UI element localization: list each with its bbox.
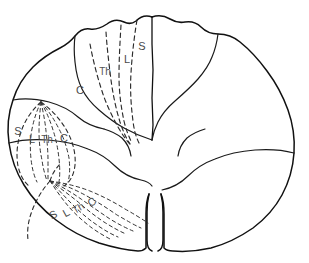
dorsal-funiculus-label-c: C <box>76 84 84 96</box>
segment-labels-group: CThLSSLThCSLThC <box>14 40 145 221</box>
gray-matter-left-border <box>9 140 152 186</box>
lateral-funiculus-label-s: S <box>14 125 21 137</box>
spinal-cord-diagram: CThLSSLThCSLThC <box>0 0 309 263</box>
ventral-funiculus-label-c: C <box>85 195 98 209</box>
dorsal-funiculus-label-th: Th <box>99 66 111 77</box>
inner-contour-right <box>178 129 205 156</box>
dorsal-lamina-line-2 <box>131 20 139 143</box>
lateral-funiculus-border <box>13 99 104 129</box>
dorsal-funiculus-label-l: L <box>124 53 130 65</box>
ventral-column-edges <box>28 163 61 240</box>
ventral-median-fissure <box>147 194 163 251</box>
diagram-canvas: CThLSSLThCSLThC <box>0 0 309 263</box>
ventral-funiculus-label-s: S <box>47 207 59 221</box>
sulcus-group <box>13 34 218 140</box>
lateral-funiculus-label-th: Th <box>41 134 53 145</box>
dorsal-funiculus-label-s: S <box>138 40 145 52</box>
gray-matter-right-border <box>162 150 294 190</box>
ventral-fissure-right-wall <box>158 194 163 251</box>
ventral-funiculus-label-th: Th <box>70 200 86 216</box>
lateral-funiculus-label-l: L <box>29 133 35 145</box>
inner-contour-left <box>104 129 131 156</box>
cord-outline-right <box>152 16 294 251</box>
dorsal-median-septum <box>152 17 153 140</box>
lateral-funiculus-label-c: C <box>60 132 68 144</box>
dorsolateral-sulcus-right <box>152 34 218 140</box>
dorsal-column-lamination <box>90 20 139 144</box>
